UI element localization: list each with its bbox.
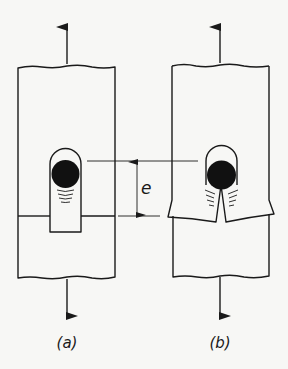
right-flap-outline xyxy=(221,66,274,222)
deformation-hatch xyxy=(57,190,74,203)
lower-body-outline xyxy=(173,214,269,278)
pin-icon xyxy=(52,160,80,188)
dimension-symbol: e xyxy=(141,178,151,198)
left-flap-outline xyxy=(168,66,221,222)
diagram-canvas: (a) e (b) xyxy=(0,0,288,369)
panel-a-label: (a) xyxy=(57,334,78,352)
lower-body-outline xyxy=(18,216,115,279)
upper-body-outline xyxy=(172,64,269,67)
panel-b-label: (b) xyxy=(209,334,230,352)
dimension-e: e xyxy=(87,161,198,216)
panel-b: (b) xyxy=(168,27,274,352)
upper-body-outline xyxy=(18,65,115,216)
pin-icon xyxy=(207,161,236,190)
panel-a: (a) xyxy=(18,27,115,352)
